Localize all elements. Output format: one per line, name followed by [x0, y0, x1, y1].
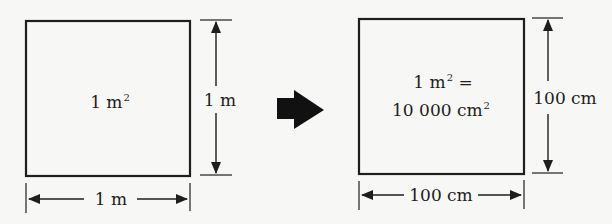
left-area-base: 1 m — [90, 92, 122, 112]
right-square — [359, 19, 524, 174]
equation-line2-exponent: 2 — [484, 100, 490, 111]
right-equation-line2: 10 000 cm2 — [392, 102, 490, 119]
diagram-graphics — [0, 0, 612, 224]
left-square-group — [26, 20, 232, 213]
left-area-label: 1 m2 — [90, 94, 130, 111]
left-area-exponent: 2 — [123, 92, 129, 103]
equation-line1-base: 1 m — [413, 72, 445, 92]
right-height-label: 100 cm — [533, 90, 597, 107]
right-arrow-icon — [277, 90, 324, 129]
left-width-label: 1 m — [95, 191, 127, 208]
unit-conversion-diagram: 1 m2 1 m 1 m 1 m2 = 10 000 cm2 100 cm 10… — [0, 0, 612, 224]
equation-line1-exponent: 2 — [447, 72, 453, 83]
equation-line1-equals: = — [453, 72, 473, 92]
right-equation-line1: 1 m2 = — [413, 74, 472, 91]
equation-line2-base: 10 000 cm — [392, 100, 483, 120]
left-height-label: 1 m — [204, 92, 236, 109]
right-width-label: 100 cm — [409, 187, 473, 204]
